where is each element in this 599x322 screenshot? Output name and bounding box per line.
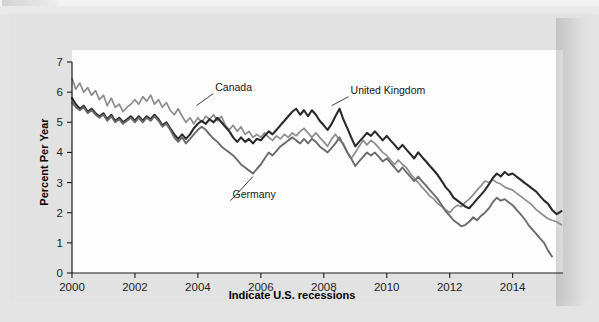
x-tick-label: 2010: [374, 281, 400, 293]
series-label-germany: Germany: [233, 188, 277, 200]
y-tick-labels: 01234567: [57, 56, 64, 279]
series-line-canada: [72, 79, 561, 225]
y-tick-label: 3: [57, 177, 63, 189]
y-tick-label: 6: [57, 86, 63, 98]
x-tick-label: 2014: [500, 281, 526, 293]
series-label-united-kingdom: United Kingdom: [351, 84, 426, 96]
y-tick-label: 5: [57, 116, 63, 128]
annotation-leader-line: [196, 94, 213, 106]
y-tick-label: 0: [57, 267, 63, 279]
series-line-united-kingdom: [72, 98, 561, 214]
y-tick-label: 1: [57, 237, 63, 249]
y-axis-title: Percent Per Year: [38, 118, 50, 206]
x-tick-label: 2012: [437, 281, 463, 293]
axis-lines: [72, 62, 563, 273]
chart-caption: Indicate U.S. recessions: [229, 289, 356, 301]
y-tick-label: 4: [57, 146, 64, 158]
annotation-leader-line: [332, 97, 349, 106]
series-label-canada: Canada: [215, 81, 252, 93]
x-tick-label: 2002: [122, 281, 148, 293]
x-tick-label: 2000: [59, 281, 85, 293]
series-line-germany: [72, 103, 552, 257]
y-tick-label: 2: [57, 207, 63, 219]
series-group: [72, 79, 561, 257]
axes-group: [67, 62, 563, 278]
line-chart: 20002002200420062008201020122014 0123456…: [0, 0, 599, 322]
x-tick-label: 2004: [185, 281, 211, 293]
y-tick-label: 7: [57, 56, 63, 68]
